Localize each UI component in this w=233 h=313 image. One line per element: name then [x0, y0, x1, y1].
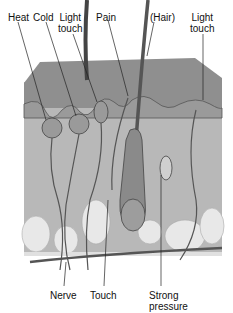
heat-receptor — [42, 118, 62, 138]
label-pain: Pain — [96, 12, 116, 23]
label-light-touch: Light touch — [58, 12, 82, 34]
skin-cross-section-illustration — [0, 0, 233, 313]
label-touch: Touch — [90, 290, 117, 301]
label-strong-pressure: Strong pressure — [149, 290, 188, 312]
label-heat: Heat — [8, 12, 29, 23]
strong-pressure-receptor — [160, 156, 172, 180]
label-light-touch-2: Light touch — [190, 12, 214, 34]
hair-shaft-left — [86, 0, 88, 80]
label-hair: (Hair) — [150, 12, 175, 23]
light-touch-receptor — [94, 101, 108, 123]
label-nerve: Nerve — [50, 290, 77, 301]
cold-receptor — [69, 114, 89, 134]
label-cold: Cold — [33, 12, 54, 23]
